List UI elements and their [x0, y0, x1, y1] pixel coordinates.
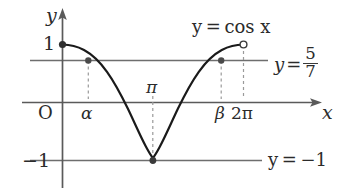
hline-label-equals: = — [286, 56, 301, 74]
xtick-label-pi: π — [146, 79, 157, 96]
y-axis-label: y — [46, 6, 57, 25]
fraction-five-sevenths: 5 7 — [303, 46, 318, 81]
point-endpoint-left — [59, 41, 66, 48]
hline-label-five-sevenths: y = 5 7 — [274, 47, 318, 82]
point-intersection-alpha — [85, 57, 91, 63]
origin-label: O — [38, 104, 53, 122]
hline-label-lhs: y — [274, 56, 284, 74]
fraction-numerator: 5 — [303, 46, 318, 63]
x-axis-label: x — [322, 103, 333, 122]
point-minimum-pi — [150, 157, 157, 164]
xtick-label-beta: β — [215, 105, 225, 122]
point-intersection-beta — [218, 57, 224, 63]
point-endpoint-right-open — [240, 41, 247, 48]
ytick-label-one: 1 — [43, 34, 55, 53]
curve-label-cos: y = cos x — [192, 18, 270, 36]
fraction-denominator: 7 — [303, 63, 318, 81]
hline-label-minus-one: y = −1 — [268, 151, 327, 169]
ytick-label-minus-one: −1 — [22, 151, 50, 170]
xtick-label-twopi: 2π — [231, 105, 253, 122]
xtick-label-alpha: α — [81, 105, 92, 122]
